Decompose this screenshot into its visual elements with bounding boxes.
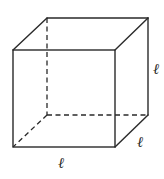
dimension-labels: ℓ ℓ ℓ xyxy=(58,60,159,172)
hidden-edge-bottom-left-depth xyxy=(13,115,47,147)
cube-diagram: ℓ ℓ ℓ xyxy=(0,0,164,179)
edge-top-left-depth xyxy=(13,18,47,50)
label-right-vertical-edge: ℓ xyxy=(153,60,159,78)
edge-top-right-depth xyxy=(115,18,148,50)
label-right-depth-edge: ℓ xyxy=(137,133,143,151)
label-bottom-edge: ℓ xyxy=(58,154,64,172)
